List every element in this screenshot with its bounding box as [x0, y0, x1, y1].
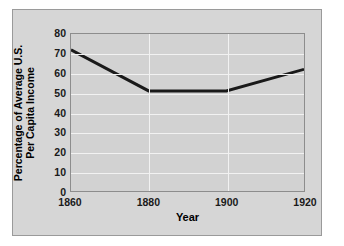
y-axis-title: Percentage of Average U.S. Per Capita In…	[12, 33, 36, 193]
y-axis-tick-label: 10	[40, 167, 66, 177]
y-axis-tick-label: 40	[40, 108, 66, 118]
chart-figure: 01020304050607080 Percentage of Average …	[0, 0, 344, 246]
x-axis-tick-label: 1880	[126, 196, 170, 208]
y-axis-tick-label: 60	[40, 68, 66, 78]
x-axis-tick-label: 1920	[283, 196, 327, 208]
gridline-horizontal	[71, 54, 304, 55]
gridline-vertical	[228, 34, 229, 191]
plot-area	[70, 33, 305, 192]
y-axis-title-line-2: Per Capita Income	[24, 33, 36, 193]
plot-wrapper: 01020304050607080 Percentage of Average …	[0, 0, 344, 246]
y-axis-tick-label: 50	[40, 88, 66, 98]
gridline-horizontal	[71, 153, 304, 154]
y-axis-tick-label: 30	[40, 127, 66, 137]
gridline-horizontal	[71, 74, 304, 75]
gridline-horizontal	[71, 133, 304, 134]
data-series-line	[71, 34, 304, 191]
x-axis-title: Year	[70, 211, 305, 223]
gridline-horizontal	[71, 114, 304, 115]
x-axis-tick-label: 1860	[48, 196, 92, 208]
clipped-caption: ............ ... .... .... ..... ...... …	[12, 240, 322, 246]
y-axis-title-line-1: Percentage of Average U.S.	[12, 33, 24, 193]
gridline-horizontal	[71, 173, 304, 174]
y-axis-tick-label: 70	[40, 48, 66, 58]
gridline-horizontal	[71, 94, 304, 95]
y-axis-tick-labels: 01020304050607080	[38, 0, 66, 246]
x-axis-tick-label: 1900	[205, 196, 249, 208]
y-axis-tick-label: 20	[40, 147, 66, 157]
y-axis-tick-label: 80	[40, 28, 66, 38]
gridline-vertical	[149, 34, 150, 191]
